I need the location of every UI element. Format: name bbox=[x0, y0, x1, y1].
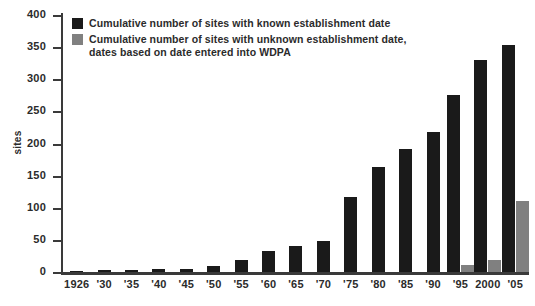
bar-known-date bbox=[474, 60, 487, 272]
bar-known-date bbox=[180, 269, 193, 272]
bar-unknown-date bbox=[516, 201, 529, 272]
x-axis-tick-label: 2000 bbox=[474, 278, 501, 290]
y-axis-tick-label: 50 bbox=[33, 233, 46, 245]
x-axis-tick-label: 1926 bbox=[63, 278, 90, 290]
x-axis-tick-label: '60 bbox=[255, 278, 282, 290]
y-axis-tick-label: 350 bbox=[27, 40, 46, 52]
x-axis-tick-label: '30 bbox=[90, 278, 117, 290]
bar-known-date bbox=[125, 270, 138, 272]
legend-item: Cumulative number of sites with unknown … bbox=[72, 33, 452, 59]
x-axis-tick-label: '75 bbox=[337, 278, 364, 290]
bar-known-date bbox=[207, 266, 220, 272]
bar-known-date bbox=[372, 167, 385, 272]
legend-swatch bbox=[72, 18, 83, 29]
legend-swatch bbox=[72, 34, 83, 45]
bar-known-date bbox=[152, 269, 165, 272]
bar-known-date bbox=[235, 260, 248, 272]
legend-item: Cumulative number of sites with known es… bbox=[72, 17, 452, 30]
bar-known-date bbox=[427, 132, 440, 272]
y-axis-tick-label: 250 bbox=[27, 104, 46, 116]
x-axis-tick-label: '55 bbox=[227, 278, 254, 290]
legend-label: Cumulative number of sites with known es… bbox=[89, 17, 390, 30]
x-axis-ticks: 1926'30'35'40'45'50'55'60'65'70'75'80'85… bbox=[63, 278, 529, 298]
bar-group bbox=[502, 15, 529, 272]
bar-chart: sites 400350300250200150100500 1926'30'3… bbox=[0, 0, 535, 306]
y-axis-tick-label: 300 bbox=[27, 72, 46, 84]
bar-known-date bbox=[399, 149, 412, 272]
y-axis-tick-label: 100 bbox=[27, 201, 46, 213]
x-axis-tick-label: '65 bbox=[282, 278, 309, 290]
bar-unknown-date bbox=[488, 260, 501, 272]
bar-known-date bbox=[70, 271, 83, 272]
legend-label: Cumulative number of sites with unknown … bbox=[89, 33, 406, 59]
bar-known-date bbox=[317, 241, 330, 272]
x-axis-tick-label: '05 bbox=[502, 278, 529, 290]
x-axis-tick-label: '95 bbox=[447, 278, 474, 290]
bar-known-date bbox=[262, 251, 275, 272]
y-axis-tick-label: 200 bbox=[27, 137, 46, 149]
x-axis-tick-label: '85 bbox=[392, 278, 419, 290]
bar-known-date bbox=[344, 197, 357, 272]
x-axis-tick-label: '80 bbox=[365, 278, 392, 290]
x-axis-tick-label: '40 bbox=[145, 278, 172, 290]
bar-known-date bbox=[289, 246, 302, 272]
x-axis-tick-label: '35 bbox=[118, 278, 145, 290]
x-axis-tick-label: '45 bbox=[173, 278, 200, 290]
bar-known-date bbox=[98, 270, 111, 272]
y-axis-tick-label: 400 bbox=[27, 8, 46, 20]
x-axis-tick-label: '90 bbox=[419, 278, 446, 290]
y-axis-tick-label: 0 bbox=[40, 265, 46, 277]
bar-unknown-date bbox=[461, 265, 474, 272]
bar-known-date bbox=[502, 45, 515, 272]
x-axis-tick-label: '70 bbox=[310, 278, 337, 290]
bar-known-date bbox=[447, 95, 460, 272]
chart-legend: Cumulative number of sites with known es… bbox=[72, 17, 452, 62]
bar-group bbox=[474, 15, 501, 272]
y-axis-ticks: 400350300250200150100500 bbox=[0, 0, 62, 306]
y-axis-tick-label: 150 bbox=[27, 169, 46, 181]
x-axis-tick-label: '50 bbox=[200, 278, 227, 290]
x-axis-line bbox=[61, 272, 529, 275]
